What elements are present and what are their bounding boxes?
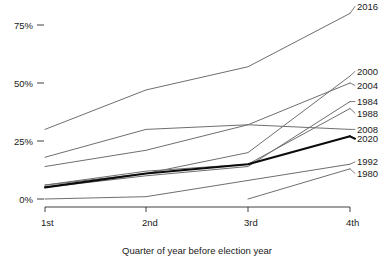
leader-line-1988 <box>350 109 355 114</box>
series-line-2008 <box>45 125 350 157</box>
series-label-2000: 2000 <box>357 66 378 77</box>
series-line-1988 <box>45 109 350 186</box>
series-label-1988: 1988 <box>357 108 378 119</box>
x-axis-tick-label: 2nd <box>142 217 158 228</box>
leader-line-2000 <box>350 71 355 76</box>
leader-line-2004 <box>350 83 355 85</box>
x-axis-tick-label: 1st <box>41 217 54 228</box>
series-line-1980 <box>248 169 350 199</box>
series-labels: 201620002004198419882008202019921980 <box>357 1 378 179</box>
series-label-1992: 1992 <box>357 156 378 167</box>
leader-line-1980 <box>350 169 355 174</box>
series-label-leaders <box>350 6 355 173</box>
leader-line-2020 <box>350 136 355 138</box>
series-line-2016 <box>45 13 350 129</box>
series-label-1980: 1980 <box>357 168 378 179</box>
x-axis-tick-label: 4th <box>346 217 359 228</box>
series-label-1984: 1984 <box>357 96 378 107</box>
y-axis: 0%25%50%75% <box>14 20 44 205</box>
series-label-2020: 2020 <box>357 133 378 144</box>
x-axis: 1st2nd3rd4th <box>41 207 359 228</box>
chart-canvas: 0%25%50%75% 1st2nd3rd4th 201620002004198… <box>0 0 389 266</box>
y-axis-tick-label: 0% <box>19 194 33 205</box>
series-lines <box>45 13 350 199</box>
series-label-2016: 2016 <box>357 1 378 12</box>
leader-line-1992 <box>350 162 355 164</box>
y-axis-tick-label: 75% <box>14 20 34 31</box>
x-axis-title: Quarter of year before election year <box>122 245 272 256</box>
line-chart: 0%25%50%75% 1st2nd3rd4th 201620002004198… <box>0 0 389 266</box>
x-axis-tick-label: 3rd <box>244 217 258 228</box>
y-axis-tick-label: 25% <box>14 136 34 147</box>
series-label-2004: 2004 <box>357 80 378 91</box>
leader-line-2016 <box>350 6 355 13</box>
y-axis-tick-label: 50% <box>14 78 34 89</box>
series-line-2004 <box>45 83 350 167</box>
